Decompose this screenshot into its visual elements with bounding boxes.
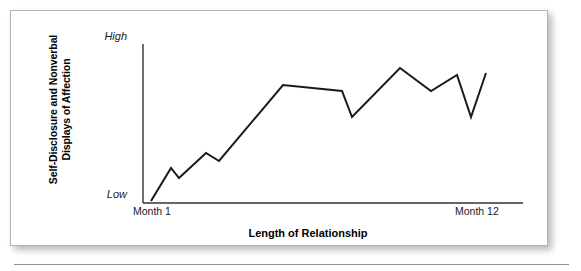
caption-divider (14, 264, 569, 265)
chart-container: Self-Disclosure and Nonverbal Displays o… (11, 11, 549, 247)
data-series-line (151, 68, 486, 201)
x-axis-tick-right: Month 12 (455, 205, 499, 217)
x-axis-title: Length of Relationship (11, 227, 549, 239)
figure-card: Self-Disclosure and Nonverbal Displays o… (10, 10, 548, 246)
x-axis-title-text: Length of Relationship (248, 227, 367, 239)
x-axis-tick-left: Month 1 (133, 205, 171, 217)
